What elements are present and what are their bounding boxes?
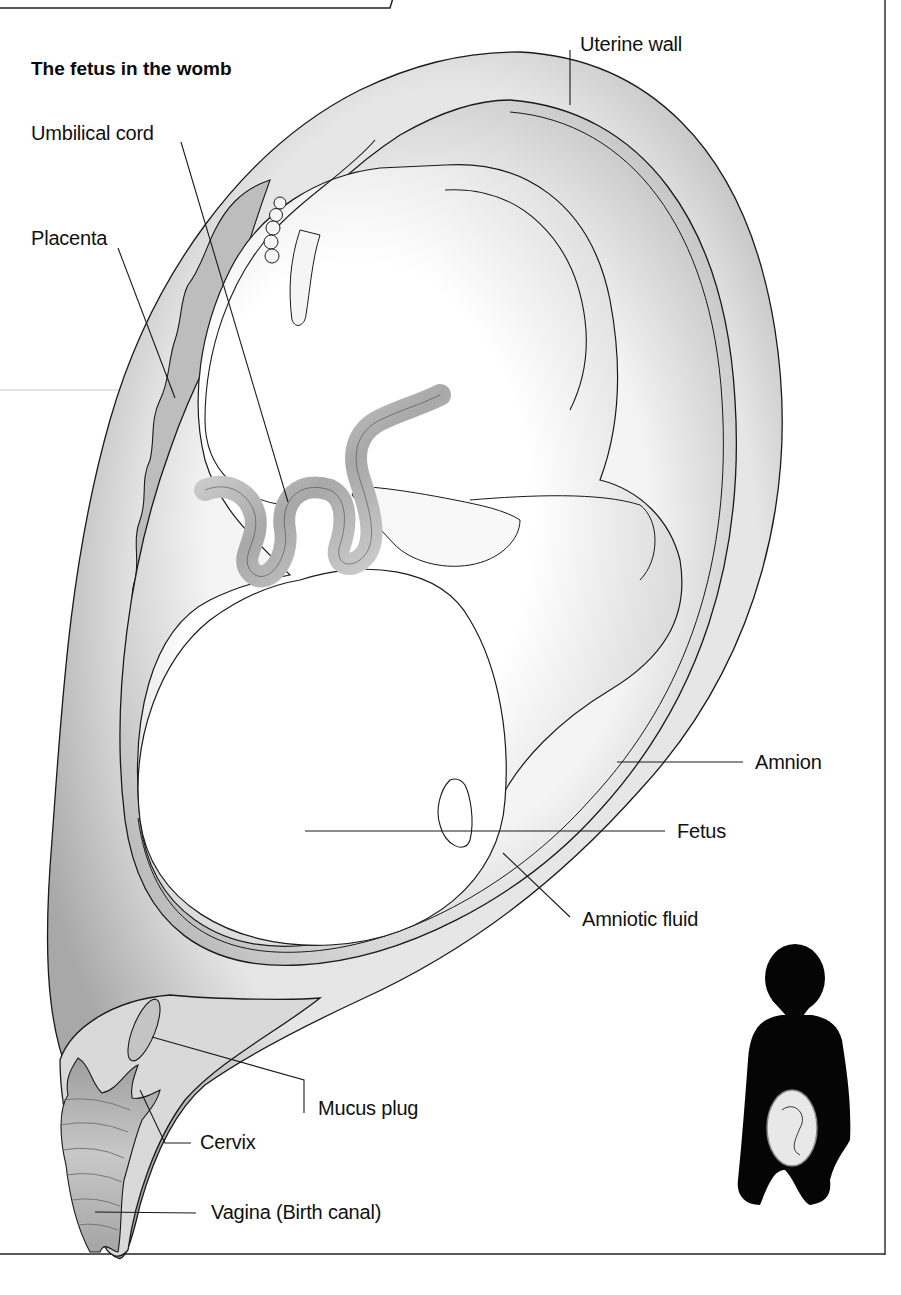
- diagram-canvas: The fetus in the womb Uterine wall Umbil…: [0, 0, 901, 1295]
- frame-top-fragment: [0, 0, 393, 8]
- label-umbilical-cord: Umbilical cord: [31, 122, 154, 144]
- anatomy-illustration: [0, 0, 901, 1295]
- label-amnion: Amnion: [755, 751, 822, 773]
- label-placenta: Placenta: [31, 227, 107, 249]
- diagram-title: The fetus in the womb: [31, 58, 232, 80]
- inset-womb: [767, 1090, 817, 1166]
- label-cervix: Cervix: [200, 1131, 255, 1153]
- label-fetus: Fetus: [677, 820, 726, 842]
- label-amniotic-fluid: Amniotic fluid: [582, 908, 698, 930]
- label-mucus-plug: Mucus plug: [318, 1097, 418, 1119]
- label-uterine-wall: Uterine wall: [580, 33, 682, 55]
- label-vagina: Vagina (Birth canal): [211, 1201, 381, 1223]
